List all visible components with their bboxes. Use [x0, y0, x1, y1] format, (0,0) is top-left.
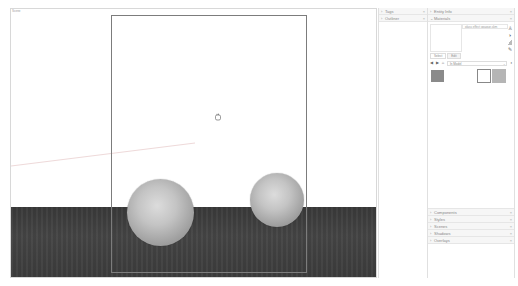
tab-select[interactable]: Select	[430, 53, 446, 59]
panel-components[interactable]: › Components ×	[428, 209, 514, 216]
close-icon[interactable]: ×	[510, 238, 512, 243]
panel-title: Scenes	[434, 224, 510, 229]
close-icon[interactable]: ×	[423, 9, 425, 14]
panel-styles[interactable]: › Styles ×	[428, 216, 514, 223]
panel-shadows[interactable]: › Shadows ×	[428, 230, 514, 237]
create-material-icon[interactable]: ◑	[507, 33, 512, 38]
panel-title: Entity Info	[434, 9, 510, 14]
panel-materials[interactable]: ⌄ Materials ×	[428, 15, 514, 22]
material-swatch[interactable]	[431, 70, 444, 82]
material-swatch-selected[interactable]	[477, 69, 491, 83]
forward-icon[interactable]: ▶	[435, 61, 439, 65]
panel-outliner[interactable]: › Outliner ×	[379, 15, 427, 22]
close-icon[interactable]: ×	[510, 210, 512, 215]
close-icon[interactable]: ×	[510, 9, 512, 14]
tab-edit[interactable]: Edit	[447, 53, 460, 59]
home-icon[interactable]: ⌂	[441, 61, 445, 65]
collection-dropdown[interactable]: In Model ⌄	[447, 61, 507, 66]
panel-title: Components	[434, 210, 510, 215]
sphere-large[interactable]	[127, 179, 194, 246]
materials-side-toolbar: ♙ ◑ ✎	[507, 26, 513, 54]
material-swatches	[430, 68, 514, 82]
close-icon[interactable]: ×	[510, 224, 512, 229]
close-icon[interactable]: ×	[510, 217, 512, 222]
material-name-field[interactable]: glass effect opaque.skm	[462, 24, 508, 29]
panel-title: Styles	[434, 217, 510, 222]
material-preview	[430, 24, 462, 52]
back-icon[interactable]: ◀	[429, 61, 433, 65]
panel-title: Tags	[385, 9, 423, 14]
default-material-icon[interactable]	[507, 40, 512, 45]
panel-entity-info[interactable]: › Entity Info ×	[428, 8, 514, 15]
model-viewport[interactable]: Scene	[10, 8, 377, 278]
scene-label: Scene	[12, 9, 21, 13]
close-icon[interactable]: ×	[510, 16, 512, 21]
tray-left-column: › Tags × › Outliner ×	[378, 8, 427, 278]
chevron-down-icon: ⌄	[503, 62, 506, 65]
default-tray: › Entity Info × ⌄ Materials × glass effe…	[427, 8, 515, 278]
panel-scenes[interactable]: › Scenes ×	[428, 223, 514, 230]
materials-toolbar: ◀ ▶ ⌂ In Model ⌄ ◑	[429, 60, 513, 66]
materials-tabs: Select Edit	[430, 53, 461, 59]
close-icon[interactable]: ×	[510, 231, 512, 236]
sphere-small[interactable]	[250, 173, 304, 227]
details-icon[interactable]: ◑	[509, 61, 513, 65]
panel-overlays[interactable]: › Overlays ×	[428, 237, 514, 244]
pan-hand-cursor-icon	[214, 113, 222, 121]
sample-paint-icon[interactable]: ✎	[507, 47, 512, 52]
close-icon[interactable]: ×	[423, 16, 425, 21]
panel-title: Shadows	[434, 231, 510, 236]
panel-title: Materials	[434, 16, 510, 21]
paint-bucket-icon[interactable]: ♙	[507, 26, 512, 31]
panel-title: Outliner	[385, 16, 423, 21]
panel-title: Overlays	[434, 238, 510, 243]
materials-body: glass effect opaque.skm ♙ ◑ ✎ Select Edi…	[428, 22, 514, 209]
panel-tags[interactable]: › Tags ×	[379, 8, 427, 15]
material-swatch[interactable]	[492, 69, 506, 83]
collection-value: In Model	[450, 62, 462, 65]
lower-panels: › Components × › Styles × › Scenes × › S…	[428, 209, 514, 244]
